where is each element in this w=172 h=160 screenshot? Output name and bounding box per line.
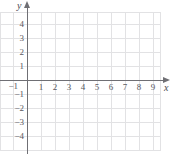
x-tick-label-7: 7 <box>118 83 132 93</box>
x-tick-label-4: 4 <box>76 83 90 93</box>
gridline-horizontal <box>0 150 161 151</box>
gridline-horizontal <box>0 122 161 123</box>
y-tick-label-neg-2: −2 <box>10 104 24 114</box>
gridline-vertical <box>0 12 1 151</box>
gridline-horizontal <box>0 38 161 39</box>
y-axis-label: y <box>17 1 21 11</box>
gridline-vertical <box>160 12 161 151</box>
gridline-horizontal <box>0 52 161 53</box>
y-tick-label-neg-4: −4 <box>10 132 24 142</box>
x-tick-label-1: 1 <box>34 83 48 93</box>
coordinate-grid-figure: y x 1 2 3 4 5 6 7 8 9 −1 4 3 2 1 −1 −2 −… <box>0 0 172 160</box>
x-axis-label: x <box>164 83 168 93</box>
x-tick-label-6: 6 <box>104 83 118 93</box>
x-tick-label-9: 9 <box>146 83 160 93</box>
x-tick-label-5: 5 <box>90 83 104 93</box>
gridline-horizontal <box>0 12 161 13</box>
x-tick-label-8: 8 <box>132 83 146 93</box>
x-axis-line <box>0 80 166 81</box>
y-tick-label-2: 2 <box>10 48 24 58</box>
y-tick-label-neg-3: −3 <box>10 118 24 128</box>
y-axis-arrow-icon <box>24 1 30 8</box>
gridline-horizontal <box>0 94 161 95</box>
gridline-horizontal <box>0 136 161 137</box>
y-tick-label-4: 4 <box>10 20 24 30</box>
y-tick-label-1: 1 <box>10 62 24 72</box>
gridline-horizontal <box>0 24 161 25</box>
y-tick-label-neg-1: −1 <box>10 90 24 100</box>
gridline-horizontal <box>0 108 161 109</box>
gridline-horizontal <box>0 66 161 67</box>
x-tick-label-3: 3 <box>62 83 76 93</box>
x-tick-label-2: 2 <box>48 83 62 93</box>
y-tick-label-3: 3 <box>10 34 24 44</box>
